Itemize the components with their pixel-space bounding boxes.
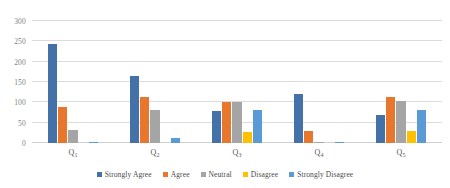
x-axis-category-label: Q2	[114, 146, 196, 160]
legend-label: Strongly Agree	[105, 170, 152, 179]
bar	[68, 130, 77, 143]
bar-group	[278, 21, 360, 143]
bar	[232, 102, 241, 143]
bar	[314, 142, 323, 143]
bar-chart: 050100150200250300 Q1Q2Q3Q4Q5 Strongly A…	[0, 0, 450, 188]
legend-swatch-icon	[289, 172, 294, 177]
bar-group-bars	[294, 21, 345, 143]
bar-group	[360, 21, 442, 143]
legend-swatch-icon	[201, 172, 206, 177]
bar	[243, 132, 252, 143]
bar-group-bars	[130, 21, 181, 143]
legend-label: Agree	[171, 170, 190, 179]
y-axis-tick-label: 100	[14, 98, 26, 107]
y-axis-tick-label: 0	[22, 139, 26, 148]
bar	[48, 44, 57, 143]
y-axis-tick-label: 150	[14, 78, 26, 87]
bar	[407, 131, 416, 143]
bar	[386, 97, 395, 143]
bar	[89, 142, 98, 143]
bar	[150, 110, 159, 143]
y-axis-tick-label: 200	[14, 57, 26, 66]
bar	[212, 111, 221, 143]
bar-group-bars	[48, 21, 99, 143]
y-axis-tick-label: 50	[18, 118, 26, 127]
legend-item[interactable]: Neutral	[201, 170, 232, 179]
x-axis-category-label: Q3	[196, 146, 278, 160]
bar	[335, 142, 344, 143]
legend-label: Disagree	[251, 170, 278, 179]
chart-legend: Strongly AgreeAgreeNeutralDisagreeStrong…	[0, 170, 450, 179]
legend-item[interactable]: Strongly Disagree	[289, 170, 353, 179]
legend-swatch-icon	[163, 172, 168, 177]
x-axis-category-label: Q1	[32, 146, 114, 160]
bar	[130, 76, 139, 143]
bar	[376, 115, 385, 143]
plot-area	[32, 21, 442, 143]
x-axis: Q1Q2Q3Q4Q5	[32, 146, 442, 160]
y-axis: 050100150200250300	[0, 21, 30, 143]
legend-item[interactable]: Agree	[163, 170, 190, 179]
y-axis-tick-label: 300	[14, 17, 26, 26]
bar	[294, 94, 303, 143]
legend-label: Neutral	[209, 170, 232, 179]
bar	[417, 110, 426, 143]
bar	[58, 107, 67, 143]
legend-swatch-icon	[97, 172, 102, 177]
legend-item[interactable]: Strongly Agree	[97, 170, 152, 179]
bar	[222, 102, 231, 143]
bar	[396, 101, 405, 143]
bar	[171, 138, 180, 143]
bar-group	[114, 21, 196, 143]
bar-groups	[32, 21, 442, 143]
bar-group	[32, 21, 114, 143]
bar-group	[196, 21, 278, 143]
legend-item[interactable]: Disagree	[243, 170, 278, 179]
bar	[304, 131, 313, 143]
x-axis-category-label: Q4	[278, 146, 360, 160]
x-axis-category-label: Q5	[360, 146, 442, 160]
bar	[253, 110, 262, 143]
y-axis-tick-label: 250	[14, 37, 26, 46]
bar	[140, 97, 149, 143]
legend-swatch-icon	[243, 172, 248, 177]
bar-group-bars	[212, 21, 263, 143]
legend-label: Strongly Disagree	[297, 170, 353, 179]
bar-group-bars	[376, 21, 427, 143]
